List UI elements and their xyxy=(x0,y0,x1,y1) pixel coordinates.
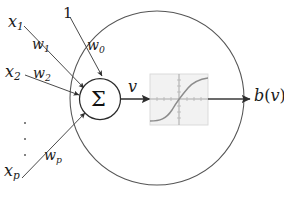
input-label-xp: xp xyxy=(4,163,20,181)
weight-label-w0: w0 xyxy=(87,38,105,54)
weight-label-wp: wp xyxy=(44,148,62,164)
weight-label-w1: w1 xyxy=(32,37,50,53)
bias-input-label: 1 xyxy=(63,4,73,22)
input-label-x2: x2 xyxy=(5,64,21,82)
connection-line-xp xyxy=(22,113,85,178)
output-label: b(v) xyxy=(254,88,284,104)
diagram-canvas xyxy=(0,0,284,198)
weight-label-w2: w2 xyxy=(33,66,51,82)
neuron-diagram-figure: x1 w1 x2 w2 xp wp 1 w0 Σ v b(v) xyxy=(0,0,284,198)
input-label-x1: x1 xyxy=(8,14,24,32)
input-ellipsis-dots xyxy=(24,122,26,156)
summation-symbol: Σ xyxy=(91,87,106,111)
net-input-label: v xyxy=(128,79,137,95)
